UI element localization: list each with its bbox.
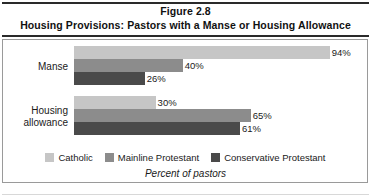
bar-row: 40%: [74, 59, 365, 72]
legend-label: Mainline Protestant: [118, 152, 199, 163]
chart-axis-caption: Percent of pastors: [0, 168, 371, 179]
legend-swatch-icon: [45, 153, 54, 162]
bar-conservative-protestant: [74, 122, 240, 135]
bar-row: 26%: [74, 72, 365, 85]
category-label-line: Manse: [38, 61, 68, 74]
bar-conservative-protestant: [74, 72, 145, 85]
bar-value-label: 26%: [145, 72, 166, 85]
bar-value-label: 30%: [156, 96, 177, 109]
legend-label: Catholic: [58, 152, 92, 163]
chart-legend: CatholicMainline ProtestantConservative …: [0, 152, 371, 163]
category-label-line: allowance: [24, 117, 68, 130]
bar-row: 94%: [74, 46, 365, 59]
bar-value-label: 61%: [240, 122, 261, 135]
bar-group: Housingallowance30%65%61%: [3, 96, 367, 138]
bar-series-area: 30%65%61%: [74, 96, 365, 138]
category-label: Housingallowance: [3, 96, 71, 138]
category-label: Manse: [3, 46, 71, 88]
legend-label: Conservative Protestant: [224, 152, 325, 163]
bar-row: 30%: [74, 96, 365, 109]
legend-swatch-icon: [105, 153, 114, 162]
bar-mainline-protestant: [74, 109, 251, 122]
bar-mainline-protestant: [74, 59, 183, 72]
top-divider-rule: [2, 2, 369, 4]
title-divider-rule: [2, 35, 369, 37]
bar-series-area: 94%40%26%: [74, 46, 365, 88]
bar-group: Manse94%40%26%: [3, 46, 367, 88]
figure-title: Housing Provisions: Pastors with a Manse…: [0, 18, 371, 32]
bar-row: 65%: [74, 109, 365, 122]
bar-row: 61%: [74, 122, 365, 135]
bar-catholic: [74, 46, 330, 59]
figure-title-block: Figure 2.8 Housing Provisions: Pastors w…: [0, 5, 371, 32]
bar-catholic: [74, 96, 156, 109]
bar-value-label: 40%: [183, 59, 204, 72]
category-label-line: Housing: [31, 105, 68, 118]
legend-swatch-icon: [211, 153, 220, 162]
legend-item: Conservative Protestant: [211, 152, 325, 163]
figure-number: Figure 2.8: [0, 5, 371, 18]
bar-value-label: 65%: [251, 109, 272, 122]
legend-item: Mainline Protestant: [105, 152, 199, 163]
figure-2-8-container: Figure 2.8 Housing Provisions: Pastors w…: [0, 0, 371, 196]
bottom-divider-rule: [2, 194, 369, 195]
bar-value-label: 94%: [330, 46, 351, 59]
legend-item: Catholic: [45, 152, 92, 163]
